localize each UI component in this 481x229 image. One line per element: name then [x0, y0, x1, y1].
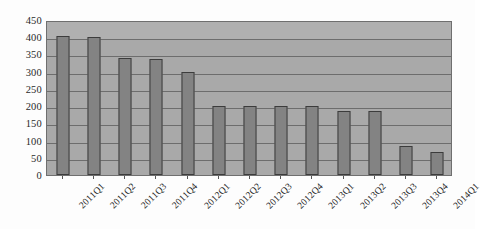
x-axis-tick [249, 176, 250, 179]
x-axis-tick [93, 176, 94, 179]
x-axis-tick [436, 176, 437, 179]
bar[interactable] [119, 58, 132, 175]
x-axis-tick [124, 176, 125, 179]
bar-slot [203, 22, 234, 175]
bar[interactable] [181, 72, 194, 175]
bar[interactable] [306, 106, 319, 175]
bar-slot [234, 22, 265, 175]
y-axis-tick-label: 50 [2, 154, 42, 164]
x-axis-tick [280, 176, 281, 179]
bar-slot [141, 22, 172, 175]
y-axis-tick-label: 150 [2, 119, 42, 129]
bar[interactable] [337, 111, 350, 175]
y-axis-tick-label: 450 [2, 16, 42, 26]
bar-slot [78, 22, 109, 175]
bar[interactable] [368, 111, 381, 175]
bar[interactable] [87, 37, 100, 175]
bar[interactable] [56, 36, 69, 175]
y-axis-tick-label: 0 [2, 171, 42, 181]
x-axis-tick-label: 2011Q4 [171, 181, 200, 210]
y-axis-tick-label: 100 [2, 137, 42, 147]
x-axis-tick-label: 2013Q2 [358, 181, 388, 211]
x-axis-tick [343, 176, 344, 179]
bar[interactable] [431, 152, 444, 175]
bar[interactable] [400, 146, 413, 175]
x-axis-tick-label: 2012Q3 [264, 181, 294, 211]
x-axis-tick [218, 176, 219, 179]
plot-area [46, 21, 452, 176]
x-axis-tick-label: 2011Q1 [77, 181, 106, 210]
x-axis-tick-label: 2013Q3 [389, 181, 419, 211]
y-axis-tick-label: 300 [2, 68, 42, 78]
x-axis-tick [155, 176, 156, 179]
x-axis-tick-label: 2012Q2 [233, 181, 263, 211]
x-axis-tick [374, 176, 375, 179]
bar-slot [47, 22, 78, 175]
bar-slot [266, 22, 297, 175]
bar-slot [109, 22, 140, 175]
x-axis-tick [62, 176, 63, 179]
bars-layer [47, 22, 451, 175]
bar-slot [297, 22, 328, 175]
bar-slot [359, 22, 390, 175]
y-axis-tick-labels: 050100150200250300350400450 [0, 0, 42, 229]
y-axis-tick-label: 200 [2, 102, 42, 112]
bar-slot [422, 22, 453, 175]
bar[interactable] [275, 106, 288, 175]
x-axis-tick [187, 176, 188, 179]
x-axis-tick-label: 2011Q2 [108, 181, 137, 210]
x-axis-tick-label: 2013Q1 [327, 181, 357, 211]
x-axis-tick-label: 2012Q1 [202, 181, 232, 211]
x-axis-tick [311, 176, 312, 179]
x-axis-tick-label: 2012Q4 [296, 181, 326, 211]
bar[interactable] [243, 106, 256, 175]
y-axis-tick-label: 250 [2, 85, 42, 95]
bar-slot [391, 22, 422, 175]
y-axis-tick-label: 350 [2, 50, 42, 60]
y-axis-tick-label: 400 [2, 33, 42, 43]
x-axis-tick-label: 2011Q3 [139, 181, 168, 210]
x-axis-tick-label: 2014Q1 [452, 181, 481, 211]
x-axis-tick-label: 2013Q4 [420, 181, 450, 211]
bar[interactable] [150, 59, 163, 175]
bar-slot [172, 22, 203, 175]
bar[interactable] [212, 106, 225, 175]
x-axis-tick [405, 176, 406, 179]
x-axis: 2011Q12011Q22011Q32011Q42012Q12012Q22012… [46, 176, 452, 229]
bar-slot [328, 22, 359, 175]
